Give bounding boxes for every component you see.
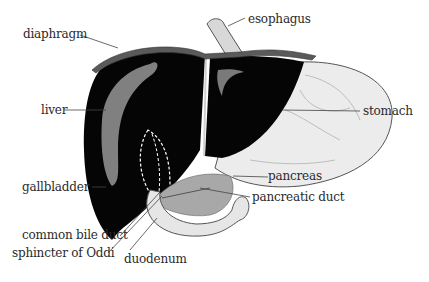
label-stomach: stomach — [363, 104, 413, 118]
label-pancreas: pancreas — [268, 169, 322, 183]
label-common-bile-duct: common bile duct — [22, 228, 128, 242]
label-esophagus: esophagus — [248, 12, 311, 26]
label-pancreatic-duct: pancreatic duct — [252, 190, 344, 204]
label-liver: liver — [41, 103, 67, 117]
label-duodenum: duodenum — [124, 252, 187, 266]
label-gallbladder: gallbladder — [22, 180, 89, 194]
label-diaphragm: diaphragm — [23, 27, 87, 41]
label-sphincter-of-oddi: sphincter of Oddi — [12, 246, 114, 260]
anatomy-diagram: diaphragm esophagus liver stomach gallbl… — [0, 0, 429, 282]
